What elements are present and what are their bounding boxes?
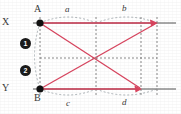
guide-arcs (35, 17, 158, 95)
ray-group (40, 23, 155, 89)
arc-b-path (96, 17, 157, 23)
intersection-dot (95, 57, 97, 59)
diagram-canvas (0, 0, 181, 114)
segment-label-d: d (122, 98, 127, 107)
point-label-b: B (34, 93, 41, 103)
arrow-heads (135, 20, 159, 93)
axis-label-x: X (2, 17, 9, 27)
segment-label-a: a (65, 5, 70, 14)
badge-1: 1 (20, 38, 31, 49)
badge-2: 2 (20, 65, 31, 76)
arc-d-path (96, 89, 157, 95)
arc-left-path (35, 23, 41, 89)
axis-label-y: Y (2, 83, 9, 93)
segment-label-c: c (66, 99, 70, 108)
arc-a-path (40, 17, 96, 23)
ray-a-lower (40, 23, 140, 88)
segment-label-b: b (122, 4, 127, 13)
point-a-dot (36, 19, 43, 26)
ray-diagram-figure: X Y A B a b c d 1 2 (0, 0, 181, 114)
arc-c-path (40, 89, 96, 95)
point-label-a: A (34, 4, 41, 14)
